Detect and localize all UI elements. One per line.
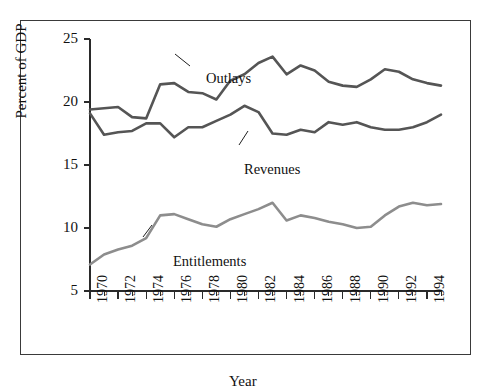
series-line-revenues — [90, 106, 441, 138]
outlays-leader-line — [175, 54, 190, 66]
series-line-entitlements — [90, 203, 441, 265]
revenues-leader-line — [239, 131, 248, 145]
x-tick-label: 1972 — [123, 275, 139, 303]
x-tick-label: 1982 — [263, 275, 279, 303]
y-axis-ticks — [84, 39, 90, 291]
x-tick-label: 1980 — [235, 275, 251, 303]
x-tick-label: 1986 — [320, 275, 336, 303]
y-tick-label: 25 — [44, 31, 78, 46]
x-axis-title: Year — [229, 373, 257, 390]
y-axis-title: Percent of GDP — [13, 1, 30, 141]
x-tick-label: 1974 — [151, 275, 167, 303]
x-tick-label: 1994 — [432, 275, 448, 303]
y-tick-label: 10 — [44, 220, 78, 235]
x-tick-label: 1990 — [376, 275, 392, 303]
outlays-label: Outlays — [206, 70, 251, 87]
y-tick-label: 20 — [44, 94, 78, 109]
series-line-outlays — [90, 57, 441, 119]
x-tick-label: 1984 — [292, 275, 308, 303]
x-tick-label: 1992 — [404, 275, 420, 303]
x-tick-label: 1978 — [207, 275, 223, 303]
x-tick-label: 1970 — [95, 275, 111, 303]
revenues-label: Revenues — [244, 161, 300, 178]
y-tick-label: 15 — [44, 157, 78, 172]
x-tick-label: 1976 — [179, 275, 195, 303]
y-tick-label: 5 — [44, 283, 78, 298]
x-tick-label: 1988 — [348, 275, 364, 303]
entitlements-label: Entitlements — [173, 253, 246, 270]
chart-frame: 510152025 197019721974197619781980198219… — [20, 20, 471, 355]
